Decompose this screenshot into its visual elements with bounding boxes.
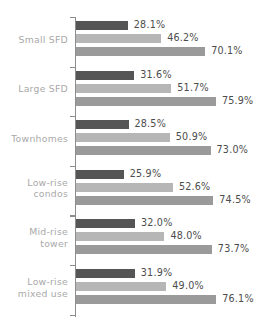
bar[interactable] — [76, 47, 205, 56]
bar-group: Mid-rise tower32.0%48.0%73.7% — [0, 218, 267, 257]
bar-value-label: 76.1% — [222, 293, 253, 305]
bar-value-label: 70.1% — [211, 45, 242, 57]
bar-value-label: 48.0% — [170, 230, 201, 242]
axis-tick — [70, 166, 75, 167]
bar[interactable] — [76, 196, 213, 205]
grouped-bar-chart: Small SFD28.1%46.2%70.1%Large SFD31.6%51… — [0, 0, 267, 335]
bar[interactable] — [76, 282, 166, 291]
bar[interactable] — [76, 170, 124, 179]
category-label: Low-rise mixed use — [0, 276, 68, 299]
axis-tick — [70, 116, 75, 117]
bar[interactable] — [76, 133, 170, 142]
category-label: Mid-rise tower — [0, 226, 68, 249]
bar-group: Townhomes28.5%50.9%73.0% — [0, 119, 267, 158]
bar[interactable] — [76, 71, 134, 80]
bar-value-label: 52.6% — [179, 181, 210, 193]
bar[interactable] — [76, 183, 173, 192]
axis-tick — [70, 17, 75, 18]
bar-value-label: 50.9% — [176, 131, 207, 143]
bar[interactable] — [76, 295, 216, 304]
bar[interactable] — [76, 146, 211, 155]
plot-area: Small SFD28.1%46.2%70.1%Large SFD31.6%51… — [0, 0, 267, 335]
axis-tick — [70, 67, 75, 68]
bar-value-label: 73.0% — [217, 144, 248, 156]
bar-group: Small SFD28.1%46.2%70.1% — [0, 20, 267, 59]
bar-value-label: 25.9% — [130, 168, 161, 180]
category-label: Townhomes — [0, 133, 68, 145]
bar-value-label: 31.9% — [141, 267, 172, 279]
bar-value-label: 46.2% — [167, 32, 198, 44]
bar[interactable] — [76, 232, 164, 241]
bar-group: Low-rise mixed use31.9%49.0%76.1% — [0, 268, 267, 307]
bar[interactable] — [76, 34, 161, 43]
category-label: Small SFD — [0, 34, 68, 46]
bar-value-label: 28.5% — [135, 118, 166, 130]
axis-tick — [70, 265, 75, 266]
bar-value-label: 31.6% — [140, 69, 171, 81]
bar-value-label: 74.5% — [219, 194, 250, 206]
bar-group: Large SFD31.6%51.7%75.9% — [0, 70, 267, 109]
bar-group: Low-rise condos25.9%52.6%74.5% — [0, 169, 267, 208]
bar[interactable] — [76, 245, 212, 254]
axis-tick — [70, 315, 75, 316]
axis-tick — [70, 215, 75, 216]
bar-value-label: 28.1% — [134, 19, 165, 31]
bar[interactable] — [76, 269, 135, 278]
bar-value-label: 75.9% — [222, 95, 253, 107]
bar[interactable] — [76, 84, 171, 93]
category-label: Large SFD — [0, 83, 68, 95]
bar[interactable] — [76, 219, 135, 228]
bar[interactable] — [76, 97, 216, 106]
bar-value-label: 32.0% — [141, 217, 172, 229]
bar-value-label: 49.0% — [172, 280, 203, 292]
bar[interactable] — [76, 120, 129, 129]
bar-value-label: 51.7% — [177, 82, 208, 94]
bar-value-label: 73.7% — [218, 243, 249, 255]
bar[interactable] — [76, 21, 128, 30]
category-label: Low-rise condos — [0, 177, 68, 200]
